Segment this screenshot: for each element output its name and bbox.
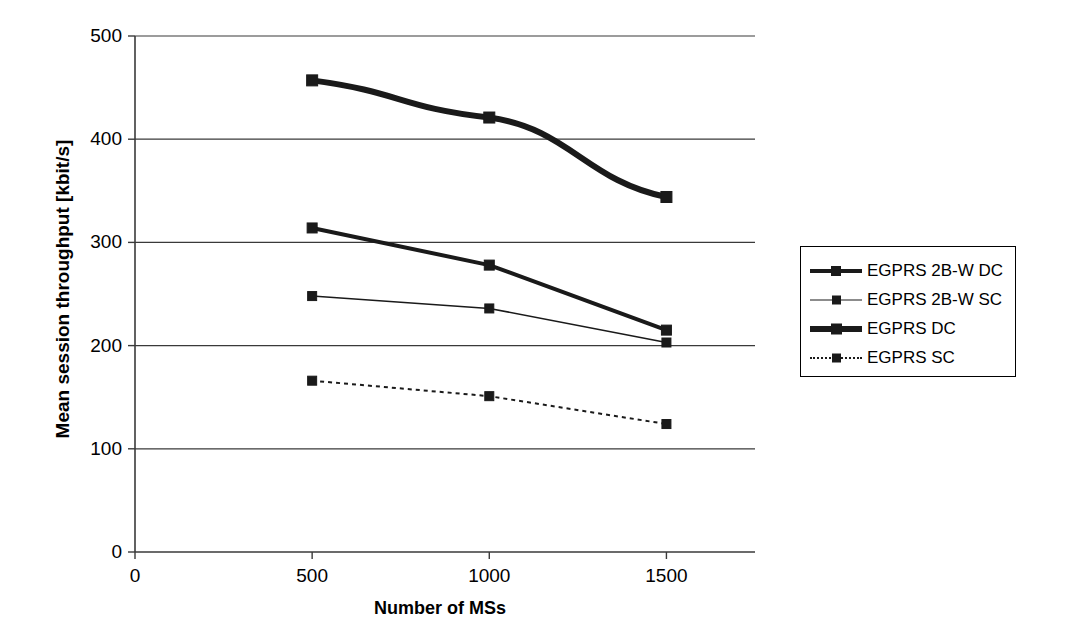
y-tick-label-0: 0 <box>56 542 122 561</box>
legend-item-egprs-2b-w-sc: EGPRS 2B-W SC <box>801 285 1015 314</box>
legend-item-label: EGPRS SC <box>862 349 955 366</box>
x-axis-title: Number of MSs <box>130 598 750 619</box>
series-line <box>312 296 666 342</box>
series-egprs-sc <box>308 376 671 428</box>
legend-marker <box>832 295 841 304</box>
series-line <box>312 228 666 330</box>
y-tick-label-400: 400 <box>56 129 122 148</box>
x-tick-label-1500: 1500 <box>626 566 706 585</box>
legend-swatch-icon <box>810 348 862 368</box>
legend-item-label: EGPRS DC <box>862 320 956 337</box>
data-point-marker <box>662 420 671 429</box>
legend-swatch-icon <box>810 261 862 281</box>
data-point-marker <box>307 75 318 86</box>
data-point-marker <box>307 223 317 233</box>
series-line <box>312 381 666 424</box>
data-point-marker <box>484 260 494 270</box>
legend-swatch-icon <box>810 290 862 310</box>
data-point-marker <box>485 392 494 401</box>
data-point-marker <box>308 292 317 301</box>
series-egprs-2b-w-dc <box>307 223 671 335</box>
x-tick-label-0: 0 <box>95 566 175 585</box>
series-egprs-2b-w-sc <box>308 292 671 347</box>
legend-item-label: EGPRS 2B-W SC <box>862 291 1002 308</box>
data-point-marker <box>484 112 495 123</box>
y-tick-label-100: 100 <box>56 439 122 458</box>
data-point-marker <box>662 338 671 347</box>
legend-item-egprs-dc: EGPRS DC <box>801 314 1015 343</box>
x-tick-label-500: 500 <box>272 566 352 585</box>
data-point-marker <box>485 304 494 313</box>
y-tick-label-500: 500 <box>56 26 122 45</box>
chart-figure: Mean session throughput [kbit/s] Number … <box>0 0 1067 643</box>
y-tick-label-200: 200 <box>56 336 122 355</box>
data-point-marker <box>661 325 671 335</box>
legend-marker <box>831 323 842 334</box>
x-tick-label-1000: 1000 <box>449 566 529 585</box>
legend-item-label: EGPRS 2B-W DC <box>862 262 1003 279</box>
legend-marker <box>832 353 841 362</box>
chart-legend: EGPRS 2B-W DCEGPRS 2B-W SCEGPRS DCEGPRS … <box>800 246 1016 377</box>
legend-marker <box>831 266 841 276</box>
y-tick-label-300: 300 <box>56 232 122 251</box>
legend-swatch-icon <box>810 319 862 339</box>
legend-item-egprs-2b-w-dc: EGPRS 2B-W DC <box>801 256 1015 285</box>
legend-item-egprs-sc: EGPRS SC <box>801 343 1015 372</box>
data-point-marker <box>308 376 317 385</box>
data-point-marker <box>661 191 672 202</box>
